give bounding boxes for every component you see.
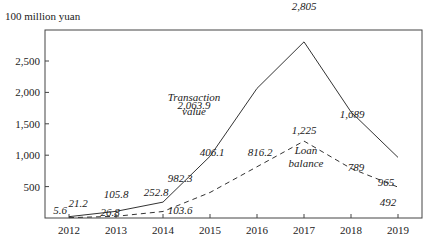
loan-balance-label: 816.2: [248, 146, 273, 158]
x-tick-label: 2016: [246, 224, 269, 236]
transaction-value-label: 252.8: [144, 186, 169, 198]
y-tick-label: 2,500: [15, 55, 40, 67]
y-tick-label: 2,000: [15, 86, 40, 98]
loan-balance-label: 103.6: [168, 204, 193, 216]
loan-balance-label: 789: [348, 161, 365, 173]
x-tick-label: 2014: [152, 224, 175, 236]
y-axis-unit-label: 100 million yuan: [5, 10, 81, 22]
x-tick-label: 2018: [340, 224, 363, 236]
loan-balance-label: 406.1: [200, 146, 225, 158]
x-tick-label: 2017: [293, 224, 316, 236]
y-axis: 5001,0001,5002,0002,500: [15, 55, 49, 193]
transaction-value-label: 982.3: [168, 172, 193, 184]
loan-balance-label: 492: [380, 196, 397, 208]
transaction-value-label: 965: [378, 176, 395, 188]
loan-balance-label: 1,225: [292, 124, 317, 136]
loan-balance-label: 5.6: [53, 204, 67, 216]
x-tick-label: 2019: [387, 224, 410, 236]
transaction-value-label: 105.8: [104, 188, 129, 200]
x-tick-label: 2015: [199, 224, 222, 236]
transaction-value-label: 2,805: [292, 0, 317, 12]
x-tick-label: 2013: [105, 224, 128, 236]
loan-balance-annotation: Loan: [294, 144, 318, 156]
transaction-value-annotation: value: [182, 105, 206, 117]
y-tick-label: 500: [24, 181, 41, 193]
plot-frame: [45, 30, 422, 218]
loan-balance-annotation: balance: [289, 157, 324, 169]
line-chart: 100 million yuan 5001,0001,5002,0002,500…: [0, 0, 442, 250]
transaction-value-annotation: Transaction: [168, 91, 221, 103]
y-tick-label: 1,500: [15, 118, 40, 130]
x-tick-label: 2012: [58, 224, 80, 236]
data-labels: 21.2105.8252.8982.32,063.92,8051,6899655…: [53, 0, 397, 218]
y-tick-label: 1,000: [15, 149, 40, 161]
loan-balance-label: 26.8: [100, 206, 120, 218]
transaction-value-label: 1,689: [340, 108, 365, 120]
transaction-value-label: 21.2: [68, 197, 88, 209]
